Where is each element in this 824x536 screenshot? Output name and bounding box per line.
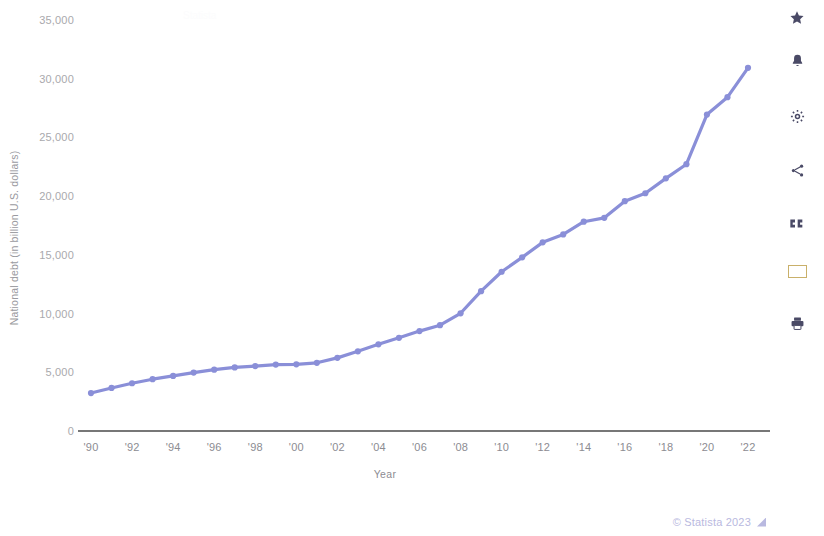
gear-icon[interactable] <box>784 103 810 129</box>
x-axis-title: Year <box>0 468 770 480</box>
print-icon[interactable] <box>784 310 810 336</box>
y-axis-tick: 30,000 <box>12 73 74 85</box>
spanish-flag-icon[interactable] <box>784 258 810 284</box>
data-point[interactable] <box>314 360 320 366</box>
data-point[interactable] <box>622 198 628 204</box>
y-axis-tick: 20,000 <box>12 190 74 202</box>
data-point[interactable] <box>396 335 402 341</box>
data-point[interactable] <box>519 254 525 260</box>
data-point[interactable] <box>683 161 689 167</box>
statista-chart-page: Statista 05,00010,00015,00020,00025,0003… <box>0 0 824 536</box>
data-point[interactable] <box>540 239 546 245</box>
line-chart-plot <box>0 0 770 500</box>
x-axis-tick: '92 <box>125 441 140 453</box>
data-point[interactable] <box>149 376 155 382</box>
data-point[interactable] <box>478 288 484 294</box>
x-axis-tick: '98 <box>248 441 263 453</box>
x-axis-tick: '18 <box>658 441 673 453</box>
x-axis-tick: '16 <box>617 441 632 453</box>
y-axis-tick: 25,000 <box>12 131 74 143</box>
statista-logo-icon <box>757 518 766 527</box>
copyright-text: © Statista 2023 <box>673 516 751 528</box>
flag-stripes <box>788 265 807 278</box>
favorite-star-icon[interactable] <box>784 5 810 31</box>
data-point[interactable] <box>560 231 566 237</box>
y-axis-title: National debt (in billion U.S. dollars) <box>8 138 20 338</box>
y-axis-tick: 5,000 <box>12 366 74 378</box>
data-point[interactable] <box>581 219 587 225</box>
chart-container: 05,00010,00015,00020,00025,00030,00035,0… <box>0 0 770 500</box>
x-axis-tick: '06 <box>412 441 427 453</box>
x-axis-tick: '02 <box>330 441 345 453</box>
y-axis-tick: 35,000 <box>12 14 74 26</box>
x-axis-tick: '94 <box>166 441 181 453</box>
x-axis-tick: '96 <box>207 441 222 453</box>
data-point[interactable] <box>642 190 648 196</box>
x-axis-tick: '22 <box>741 441 756 453</box>
data-point[interactable] <box>170 373 176 379</box>
x-axis-tick: '10 <box>494 441 509 453</box>
x-axis-tick: '04 <box>371 441 386 453</box>
y-axis-tick: 0 <box>12 425 74 437</box>
statista-footer: © Statista 2023 <box>673 516 766 528</box>
x-axis-tick: '00 <box>289 441 304 453</box>
quote-icon[interactable] <box>784 210 810 236</box>
debt-line-series <box>91 68 748 393</box>
x-axis-tick: '08 <box>453 441 468 453</box>
data-point[interactable] <box>355 348 361 354</box>
debt-data-points <box>88 65 751 396</box>
data-point[interactable] <box>416 328 422 334</box>
data-point[interactable] <box>601 215 607 221</box>
data-point[interactable] <box>724 94 730 100</box>
data-point[interactable] <box>108 385 114 391</box>
data-point[interactable] <box>745 65 751 71</box>
y-axis-tick: 15,000 <box>12 249 74 261</box>
data-point[interactable] <box>499 269 505 275</box>
x-axis-tick: '12 <box>535 441 550 453</box>
x-axis-tick: '90 <box>84 441 99 453</box>
data-point[interactable] <box>232 364 238 370</box>
share-icon[interactable] <box>784 157 810 183</box>
data-point[interactable] <box>273 361 279 367</box>
data-point[interactable] <box>704 111 710 117</box>
x-axis-tick: '14 <box>576 441 591 453</box>
notification-bell-icon[interactable] <box>784 48 810 74</box>
data-point[interactable] <box>88 390 94 396</box>
y-axis-tick: 10,000 <box>12 308 74 320</box>
data-point[interactable] <box>375 341 381 347</box>
data-point[interactable] <box>129 380 135 386</box>
data-point[interactable] <box>457 310 463 316</box>
data-point[interactable] <box>252 363 258 369</box>
data-point[interactable] <box>211 367 217 373</box>
data-point[interactable] <box>293 361 299 367</box>
action-sidebar <box>770 0 824 536</box>
data-point[interactable] <box>191 369 197 375</box>
data-point[interactable] <box>437 322 443 328</box>
x-axis-tick: '20 <box>699 441 714 453</box>
data-point[interactable] <box>663 175 669 181</box>
data-point[interactable] <box>334 355 340 361</box>
